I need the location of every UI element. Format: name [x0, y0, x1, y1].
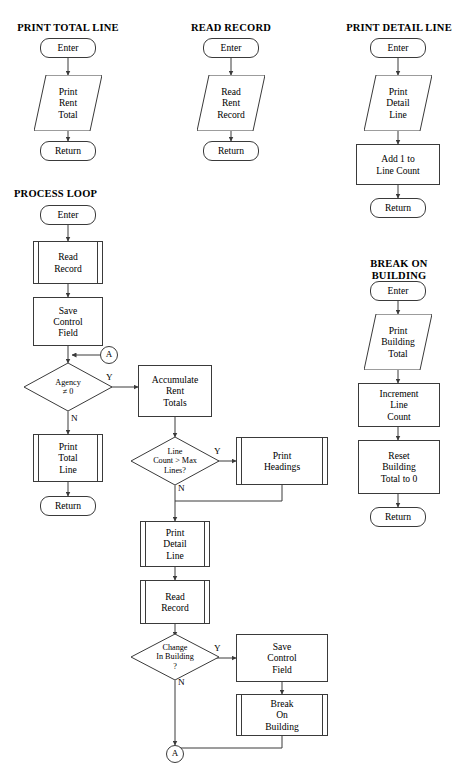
branch-label-linecount-yes: Y	[214, 446, 221, 456]
node-label: Print Total Line	[58, 441, 78, 475]
connector-label: A	[172, 748, 179, 759]
node-print-detail-line-enter: Enter	[370, 38, 426, 58]
node-label: Enter	[58, 42, 79, 53]
node-print-headings: Print Headings	[236, 437, 328, 485]
branch-label-agency-no: N	[71, 413, 78, 423]
node-label: Return	[55, 145, 81, 156]
branch-label-agency-yes: Y	[106, 372, 113, 382]
node-print-total-line-enter: Enter	[40, 38, 96, 58]
node-break-on-building-enter: Enter	[370, 281, 426, 301]
decision-agency-not-zero: Agency ≠ 0	[24, 363, 112, 411]
node-label: Enter	[221, 42, 242, 53]
connector-label: A	[106, 349, 113, 360]
node-break-on-building-pred: Break On Building	[236, 694, 328, 736]
node-label: Enter	[58, 209, 79, 220]
node-process-loop-enter: Enter	[40, 205, 96, 225]
node-label: Return	[55, 500, 81, 511]
node-read-record-1: Read Record	[33, 241, 103, 284]
node-save-control-field-2: Save Control Field	[236, 634, 328, 682]
node-label: Accumulate Rent Totals	[152, 374, 198, 408]
node-label: Print Detail Line	[386, 86, 409, 120]
node-label: Read Record	[54, 251, 82, 273]
node-label: Return	[385, 202, 411, 213]
connector-a-inbound: A	[100, 346, 118, 364]
node-label: Enter	[388, 285, 409, 296]
section-title-read-record: READ RECORD	[178, 22, 284, 34]
branch-label-linecount-no: N	[178, 483, 185, 493]
node-print-building-total: Print Building Total	[364, 314, 432, 370]
node-read-record-enter: Enter	[203, 38, 259, 58]
branch-label-change-no: N	[178, 677, 185, 687]
node-print-total-line-return: Return	[40, 141, 96, 161]
node-label: Change In Building ?	[156, 643, 194, 671]
decision-line-count-max: Line Count > Max Lines?	[131, 437, 219, 485]
node-label: Read Record	[161, 591, 189, 613]
node-label: Print Headings	[264, 450, 300, 472]
node-print-detail-line-pred: Print Detail Line	[140, 521, 210, 567]
node-label: Return	[385, 511, 411, 522]
node-label: Save Control Field	[53, 305, 82, 339]
node-label: Increment Line Count	[380, 388, 419, 422]
section-title-break-on-building: BREAK ON BUILDING	[344, 258, 454, 282]
node-print-detail-line-return: Return	[370, 198, 426, 218]
node-print-total-line-pred: Print Total Line	[33, 434, 103, 482]
node-label: Add 1 to Line Count	[376, 153, 419, 175]
decision-change-in-building: Change In Building ?	[131, 634, 219, 680]
node-print-detail-line-io: Print Detail Line	[364, 75, 432, 131]
node-add-1-to-line-count: Add 1 to Line Count	[356, 144, 440, 185]
node-label: Read Rent Record	[217, 86, 245, 120]
node-label: Line Count > Max Lines?	[153, 447, 197, 475]
node-accumulate-rent-totals: Accumulate Rent Totals	[138, 365, 212, 417]
branch-label-change-yes: Y	[214, 643, 221, 653]
node-label: Agency ≠ 0	[55, 378, 80, 397]
connector-a-outbound: A	[166, 745, 184, 763]
node-label: Print Rent Total	[58, 86, 78, 120]
node-read-rent-record: Read Rent Record	[197, 75, 265, 131]
node-reset-building-total: Reset Building Total to 0	[358, 440, 440, 494]
node-label: Return	[218, 145, 244, 156]
node-label: Print Building Total	[381, 325, 415, 359]
section-title-print-total-line: PRINT TOTAL LINE	[12, 22, 124, 34]
node-break-on-building-return: Return	[370, 507, 426, 527]
node-save-control-field-1: Save Control Field	[33, 297, 103, 346]
node-increment-line-count: Increment Line Count	[358, 383, 440, 427]
node-read-record-return: Return	[203, 141, 259, 161]
node-label: Reset Building Total to 0	[381, 450, 418, 484]
node-label: Save Control Field	[267, 641, 296, 675]
node-process-loop-return: Return	[40, 496, 96, 516]
node-label: Enter	[388, 42, 409, 53]
section-title-process-loop: PROCESS LOOP	[14, 188, 120, 200]
node-label: Break On Building	[265, 698, 299, 732]
node-read-record-2: Read Record	[140, 580, 210, 624]
node-label: Print Detail Line	[163, 527, 186, 561]
section-title-print-detail-line: PRINT DETAIL LINE	[340, 22, 458, 34]
node-print-rent-total: Print Rent Total	[34, 75, 102, 131]
